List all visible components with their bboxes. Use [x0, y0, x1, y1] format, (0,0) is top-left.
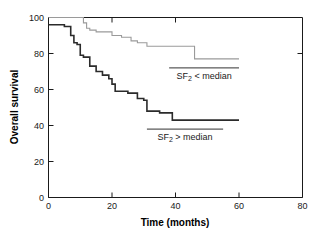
- y-axis-ticks: [49, 18, 54, 198]
- x-axis-ticklabels: 0 20 40 60 80: [46, 201, 308, 211]
- upper-annotation-prefix: SF: [176, 71, 188, 81]
- y-ticklabel-100: 100: [29, 13, 44, 23]
- y-ticklabel-60: 60: [34, 85, 44, 95]
- y-axis-ticklabels: 0 20 40 60 80 100: [29, 13, 44, 203]
- upper-annotation-suffix: < median: [192, 71, 232, 81]
- survival-chart-figure: 0 20 40 60 80 100 0 20 40 60 80 Overa: [0, 0, 317, 238]
- y-ticklabel-20: 20: [34, 157, 44, 167]
- axis-box: [49, 18, 303, 198]
- survival-curve-sf2-less-than-median: [49, 18, 240, 59]
- y-ticklabel-80: 80: [34, 49, 44, 59]
- x-axis-title: Time (months): [141, 217, 210, 228]
- chart-svg: 0 20 40 60 80 100 0 20 40 60 80 Overa: [0, 0, 317, 238]
- x-axis-ticks: [49, 18, 303, 198]
- survival-curves: [49, 18, 240, 121]
- lower-annotation-label: SF2 > median: [157, 132, 212, 143]
- x-ticklabel-80: 80: [297, 201, 307, 211]
- plot-frame: [49, 18, 303, 198]
- x-ticklabel-40: 40: [170, 201, 180, 211]
- upper-annotation-label: SF2 < median: [176, 71, 231, 82]
- y-axis-title: Overall survival: [9, 70, 20, 145]
- y-ticklabel-0: 0: [39, 193, 44, 203]
- x-ticklabel-20: 20: [107, 201, 117, 211]
- y-ticklabel-40: 40: [34, 121, 44, 131]
- x-ticklabel-60: 60: [234, 201, 244, 211]
- curve-annotations: SF2 < median SF2 > median: [147, 68, 239, 143]
- lower-annotation-suffix: > median: [173, 132, 213, 142]
- x-ticklabel-0: 0: [46, 201, 51, 211]
- lower-annotation-prefix: SF: [157, 132, 169, 142]
